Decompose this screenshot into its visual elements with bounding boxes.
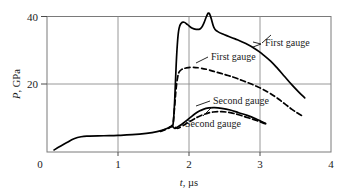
- xtick-label-2: 2: [186, 158, 192, 170]
- y-axis-unit: , GPa: [11, 69, 22, 93]
- xtick-label-3: 3: [257, 158, 263, 170]
- x-axis-unit: , µs: [183, 177, 198, 188]
- label-second-gauge-solid: Second gauge: [213, 95, 269, 106]
- axis-ticks: [41, 17, 260, 157]
- series-path-0: [54, 13, 305, 150]
- leader-first-gauge-dashed: [196, 57, 208, 63]
- label-first-gauge-dashed: First gauge: [211, 51, 256, 62]
- x-axis-title: t, µs: [180, 177, 198, 188]
- data-series-layer: [54, 13, 305, 150]
- chart-figure: 40 20 0 1 2 3 4 t, µs P, GPa First gauge…: [0, 0, 346, 192]
- ytick-label-20: 20: [27, 78, 39, 90]
- label-first-gauge-solid: First gauge: [265, 37, 310, 48]
- ytick-label-40: 40: [27, 11, 39, 23]
- xtick-label-4: 4: [328, 158, 334, 170]
- label-second-gauge-dashed: Second gauge: [185, 118, 241, 129]
- pressure-time-plot: 40 20 0 1 2 3 4 t, µs P, GPa First gauge…: [0, 0, 346, 192]
- leader-second-gauge-solid: [196, 101, 210, 106]
- xtick-label-1: 1: [115, 158, 121, 170]
- ytick-label-0: 0: [37, 158, 43, 170]
- y-axis-title: P, GPa: [11, 69, 22, 100]
